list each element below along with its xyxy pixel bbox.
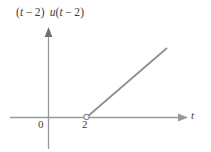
- func-minus-2: −: [65, 6, 72, 18]
- function-expression-label: (t−2)u(t−2): [16, 7, 84, 19]
- x-axis-arrowhead: [178, 113, 188, 121]
- x-tick-label-0: 0: [38, 119, 44, 130]
- plot-svg: [0, 0, 211, 152]
- func-minus-1: −: [26, 6, 33, 18]
- ramp-line: [88, 48, 168, 117]
- x-axis-variable-label: t: [191, 110, 194, 121]
- func-close-paren-2: ): [80, 6, 84, 18]
- func-var-t-2: t: [59, 6, 62, 18]
- func-close-paren-1: ): [41, 6, 45, 18]
- y-axis-arrowhead: [45, 27, 53, 37]
- func-var-t-1: t: [20, 6, 23, 18]
- x-tick-label-2: 2: [82, 119, 88, 130]
- figure-container: (t−2)u(t−2) 0 2 t: [0, 0, 211, 152]
